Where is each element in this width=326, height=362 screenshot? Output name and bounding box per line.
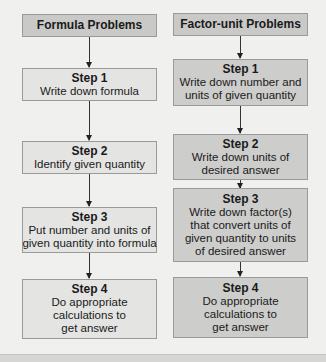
title-text: Factor-unit Problems xyxy=(180,18,301,31)
factor-unit-problems-title: Factor-unit Problems xyxy=(173,13,308,36)
step-text: desired answer xyxy=(202,164,280,177)
arrow-down-icon xyxy=(89,37,90,67)
step-label: Step 2 xyxy=(222,138,258,151)
factor-step-1: Step 1 Write down number and units of gi… xyxy=(173,59,308,106)
step-text: calculations to xyxy=(204,308,277,321)
step-text: Do appropriate xyxy=(202,295,278,308)
step-label: Step 4 xyxy=(222,282,258,295)
step-text: Write down formula xyxy=(40,85,139,98)
arrow-down-icon xyxy=(89,101,90,140)
arrow-down-icon xyxy=(89,253,90,278)
step-text: calculations to xyxy=(53,309,126,322)
formula-step-3: Step 3 Put number and units of given qua… xyxy=(22,207,157,253)
step-label: Step 3 xyxy=(71,211,107,224)
formula-problems-title: Formula Problems xyxy=(22,14,157,37)
arrow-down-icon xyxy=(240,36,241,58)
step-text: Put number and units of xyxy=(28,224,150,237)
title-text: Formula Problems xyxy=(37,19,142,32)
step-label: Step 4 xyxy=(71,283,107,296)
step-text: Write down units of xyxy=(192,151,290,164)
arrow-down-icon xyxy=(240,106,241,133)
step-text: Identify given quantity xyxy=(34,158,145,171)
formula-step-4: Step 4 Do appropriate calculations to ge… xyxy=(22,279,157,339)
step-text: of desired answer xyxy=(195,245,286,258)
formula-step-2: Step 2 Identify given quantity xyxy=(22,141,157,174)
step-text: given quantity to units xyxy=(185,232,296,245)
step-text: get answer xyxy=(212,321,268,334)
factor-step-3: Step 3 Write down factor(s) that convert… xyxy=(173,188,308,262)
step-text: Do appropriate xyxy=(51,296,127,309)
step-label: Step 1 xyxy=(222,63,258,76)
step-text: given quantity into formula xyxy=(22,237,156,250)
factor-step-4: Step 4 Do appropriate calculations to ge… xyxy=(173,277,308,338)
step-text: Write down factor(s) xyxy=(189,206,292,219)
step-label: Step 2 xyxy=(71,145,107,158)
step-label: Step 1 xyxy=(71,72,107,85)
arrow-down-icon xyxy=(240,180,241,188)
arrow-down-icon xyxy=(89,174,90,206)
step-text: units of given quantity xyxy=(185,89,296,102)
factor-step-2: Step 2 Write down units of desired answe… xyxy=(173,134,308,180)
step-text: get answer xyxy=(61,322,117,335)
bottom-border xyxy=(0,354,326,362)
step-label: Step 3 xyxy=(222,193,258,206)
step-text: that convert units of xyxy=(190,219,290,232)
step-text: Write down number and xyxy=(180,76,302,89)
arrow-down-icon xyxy=(240,262,241,276)
formula-step-1: Step 1 Write down formula xyxy=(22,68,157,101)
